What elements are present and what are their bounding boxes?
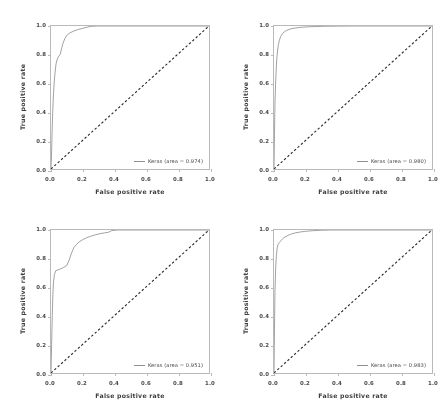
y-tick-mark: [48, 375, 51, 376]
x-tick-mark: [274, 169, 275, 172]
legend-label: Keras (area = 0.980): [371, 158, 426, 164]
y-tick-mark: [48, 113, 51, 114]
x-tick-mark: [338, 373, 339, 376]
y-tick-mark: [48, 171, 51, 172]
y-tick-label: 0.2: [28, 342, 46, 348]
y-tick-mark: [48, 84, 51, 85]
y-tick-mark: [271, 288, 274, 289]
x-tick-label: 0.2: [300, 176, 310, 182]
legend: Keras (area = 0.974): [132, 157, 205, 165]
y-tick-label: 0.2: [251, 342, 269, 348]
y-tick-label: 0.8: [251, 255, 269, 261]
y-tick-label: 0.6: [28, 284, 46, 290]
plot-area: [51, 230, 209, 373]
x-tick-mark: [51, 169, 52, 172]
y-tick-label: 0.4: [28, 109, 46, 115]
y-tick-label: 0.4: [251, 109, 269, 115]
x-tick-label: 0.0: [268, 380, 278, 386]
x-tick-mark: [370, 373, 371, 376]
x-axis-title: False positive rate: [318, 188, 387, 195]
x-tick-mark: [211, 169, 212, 172]
y-tick-label: 0.0: [28, 371, 46, 377]
y-axis-title: True positive rate: [242, 64, 249, 130]
y-tick-label: 0.8: [28, 255, 46, 261]
x-tick-label: 0.6: [364, 176, 374, 182]
roc-panel-top-left: Keras (area = 0.974)0.00.20.40.60.81.00.…: [0, 0, 223, 203]
legend-label: Keras (area = 0.983): [371, 362, 426, 368]
y-tick-mark: [48, 288, 51, 289]
x-tick-mark: [147, 169, 148, 172]
y-tick-mark: [48, 259, 51, 260]
y-tick-label: 1.0: [28, 226, 46, 232]
y-tick-label: 0.8: [28, 51, 46, 57]
x-tick-mark: [434, 373, 435, 376]
y-tick-label: 0.6: [251, 284, 269, 290]
legend: Keras (area = 0.951): [132, 361, 205, 369]
y-axis-title: True positive rate: [19, 64, 26, 130]
chance-diagonal-line: [274, 230, 432, 373]
y-tick-label: 0.8: [251, 51, 269, 57]
y-tick-mark: [271, 346, 274, 347]
chance-diagonal-line: [51, 230, 209, 373]
y-tick-mark: [271, 84, 274, 85]
x-tick-mark: [179, 373, 180, 376]
plot-area: [274, 26, 432, 169]
y-tick-label: 1.0: [251, 226, 269, 232]
y-tick-label: 0.6: [251, 80, 269, 86]
x-tick-label: 0.8: [173, 176, 183, 182]
x-tick-mark: [115, 169, 116, 172]
y-tick-mark: [271, 375, 274, 376]
plot-area: [274, 230, 432, 373]
x-axis-title: False positive rate: [95, 392, 164, 399]
x-tick-label: 0.0: [45, 176, 55, 182]
y-tick-mark: [271, 55, 274, 56]
x-tick-mark: [115, 373, 116, 376]
x-tick-mark: [211, 373, 212, 376]
chance-diagonal-line: [274, 26, 432, 169]
legend: Keras (area = 0.980): [355, 157, 428, 165]
x-tick-mark: [306, 169, 307, 172]
x-tick-label: 1.0: [205, 380, 215, 386]
x-tick-mark: [147, 373, 148, 376]
x-tick-mark: [51, 373, 52, 376]
y-tick-mark: [271, 317, 274, 318]
y-tick-label: 0.0: [28, 167, 46, 173]
x-tick-label: 0.8: [173, 380, 183, 386]
x-tick-label: 0.4: [109, 380, 119, 386]
y-tick-label: 0.2: [251, 138, 269, 144]
legend-line-swatch: [357, 365, 368, 366]
x-tick-mark: [370, 169, 371, 172]
y-tick-mark: [271, 230, 274, 231]
x-tick-label: 0.6: [141, 176, 151, 182]
y-tick-label: 0.4: [28, 313, 46, 319]
legend-line-swatch: [134, 161, 145, 162]
x-tick-mark: [179, 169, 180, 172]
x-tick-label: 0.4: [332, 176, 342, 182]
plot-frame: Keras (area = 0.951): [50, 229, 210, 374]
roc-figure-grid: Keras (area = 0.974)0.00.20.40.60.81.00.…: [0, 0, 446, 407]
x-tick-label: 0.8: [396, 380, 406, 386]
x-tick-label: 0.2: [77, 380, 87, 386]
y-tick-label: 0.0: [251, 371, 269, 377]
x-tick-mark: [83, 373, 84, 376]
x-tick-mark: [402, 169, 403, 172]
y-tick-label: 0.6: [28, 80, 46, 86]
plot-frame: Keras (area = 0.974): [50, 25, 210, 170]
x-axis-title: False positive rate: [318, 392, 387, 399]
y-axis-title: True positive rate: [242, 268, 249, 334]
x-tick-mark: [306, 373, 307, 376]
y-axis-title: True positive rate: [19, 268, 26, 334]
plot-area: [51, 26, 209, 169]
x-tick-label: 1.0: [205, 176, 215, 182]
x-tick-label: 0.0: [268, 176, 278, 182]
x-tick-label: 0.6: [364, 380, 374, 386]
x-tick-label: 1.0: [428, 380, 438, 386]
y-tick-label: 0.2: [28, 138, 46, 144]
roc-panel-top-right: Keras (area = 0.980)0.00.20.40.60.81.00.…: [223, 0, 446, 203]
x-tick-label: 0.6: [141, 380, 151, 386]
y-tick-mark: [48, 142, 51, 143]
x-tick-label: 0.4: [109, 176, 119, 182]
x-tick-label: 0.2: [77, 176, 87, 182]
x-tick-mark: [83, 169, 84, 172]
y-tick-mark: [271, 259, 274, 260]
